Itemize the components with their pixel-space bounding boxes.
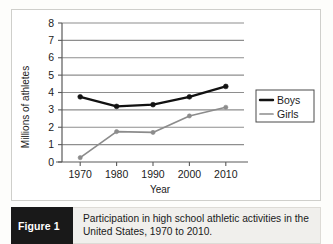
data-series-layer (78, 84, 228, 160)
data-point (78, 94, 83, 99)
y-tick-label: 7 (48, 34, 54, 46)
data-point (223, 84, 228, 89)
x-axis-ticks: 19701980199020002010 (69, 162, 238, 180)
legend-label: Girls (277, 108, 299, 120)
y-tick-label: 6 (48, 51, 54, 63)
figure-container: 012345678 19701980199020002010 Millions … (0, 0, 333, 244)
x-axis-title: Year (150, 184, 171, 195)
data-point (151, 130, 155, 134)
y-tick-label: 4 (48, 86, 54, 98)
data-point (187, 94, 192, 99)
x-tick-label: 1980 (105, 168, 129, 180)
data-point (115, 129, 119, 133)
x-tick-label: 1990 (141, 168, 165, 180)
legend: BoysGirls (256, 90, 314, 122)
data-point (187, 114, 191, 118)
series-girls (78, 105, 228, 160)
y-tick-label: 0 (48, 156, 54, 168)
chart-panel: 012345678 19701980199020002010 Millions … (11, 9, 321, 201)
figure-caption-text: Participation in high school athletic ac… (83, 213, 312, 238)
data-point (78, 156, 82, 160)
line-chart: 012345678 19701980199020002010 Millions … (12, 10, 320, 200)
y-axis-title: Millions of athletes (20, 66, 31, 148)
figure-number-tag: Figure 1 (11, 207, 73, 244)
legend-label: Boys (277, 94, 300, 106)
data-point (114, 104, 119, 109)
figure-caption-row: Figure 1 Participation in high school at… (11, 207, 321, 244)
gridlines (62, 23, 244, 145)
data-point (224, 105, 228, 109)
y-tick-label: 5 (48, 69, 54, 81)
x-tick-label: 2000 (178, 168, 202, 180)
x-tick-label: 1970 (69, 168, 93, 180)
series-boys (78, 84, 228, 109)
y-tick-label: 3 (48, 103, 54, 115)
x-tick-label: 2010 (214, 168, 238, 180)
y-tick-label: 8 (48, 17, 54, 29)
figure-number-label: Figure 1 (18, 220, 60, 232)
y-axis-ticks: 012345678 (48, 17, 62, 168)
data-point (151, 102, 156, 107)
y-tick-label: 1 (48, 138, 54, 150)
y-tick-label: 2 (48, 121, 54, 133)
figure-caption-body: Participation in high school athletic ac… (73, 207, 321, 244)
